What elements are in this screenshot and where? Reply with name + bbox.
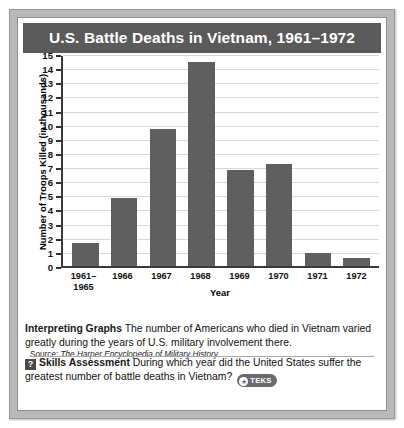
bar xyxy=(343,258,369,266)
y-axis-tick-label: 7 xyxy=(48,164,53,174)
y-axis-tick-mark xyxy=(56,168,61,170)
bar-slot xyxy=(66,56,105,266)
page-title: U.S. Battle Deaths in Vietnam, 1961–1972 xyxy=(49,29,355,47)
question-mark-icon: ? xyxy=(25,359,36,370)
y-axis-tick-mark xyxy=(56,182,61,184)
y-axis-tick-mark xyxy=(56,196,61,198)
plot-area xyxy=(61,56,379,268)
y-axis-tick-mark xyxy=(56,253,61,255)
y-axis-tick-mark xyxy=(56,140,61,142)
y-axis-tick-mark xyxy=(56,83,61,85)
y-axis-tick-label: 13 xyxy=(42,79,53,89)
bar-slot xyxy=(182,56,221,266)
y-axis-tick-mark xyxy=(56,154,61,156)
y-axis-tick-label: 15 xyxy=(42,51,53,61)
y-axis-tick-label: 2 xyxy=(48,235,53,245)
y-axis-label-wrap: Number of Troops Killed (in thousands) xyxy=(23,56,39,268)
y-axis-tick-labels: 0123456789101112131415 xyxy=(39,56,56,268)
skills-assessment-label: Skills Assessment xyxy=(39,357,130,368)
y-axis-tick-label: 1 xyxy=(48,249,53,259)
y-axis-tick-mark xyxy=(56,267,61,269)
y-axis-tick-label: 5 xyxy=(48,193,53,203)
figure-frame: U.S. Battle Deaths in Vietnam, 1961–1972… xyxy=(9,9,395,419)
y-axis-tick-mark xyxy=(56,210,61,212)
y-axis-tick-mark xyxy=(56,69,61,71)
bar-slot xyxy=(260,56,299,266)
interpreting-graphs-paragraph: Interpreting Graphs The number of Americ… xyxy=(25,322,379,349)
y-axis-tick-label: 0 xyxy=(48,263,53,273)
y-axis-tick-label: 9 xyxy=(48,136,53,146)
bar xyxy=(72,243,98,266)
y-axis-tick-mark xyxy=(56,55,61,57)
bar xyxy=(111,198,137,266)
bar-slot xyxy=(299,56,338,266)
teks-badge[interactable]: ★TEKS xyxy=(237,374,276,387)
y-axis-tick-mark xyxy=(56,126,61,128)
star-icon: ★ xyxy=(239,377,248,386)
interpreting-graphs-label: Interpreting Graphs xyxy=(25,323,122,334)
bar-slot xyxy=(105,56,144,266)
bar-series xyxy=(63,56,379,266)
y-axis-tick-label: 8 xyxy=(48,150,53,160)
y-axis-tick-label: 14 xyxy=(42,65,53,75)
y-axis-tick-label: 12 xyxy=(42,94,53,104)
y-axis-tick-mark xyxy=(56,225,61,227)
y-axis-tick-label: 4 xyxy=(48,207,53,217)
bar-slot xyxy=(337,56,376,266)
chart-title-banner: U.S. Battle Deaths in Vietnam, 1961–1972 xyxy=(23,23,381,53)
bar xyxy=(266,164,292,266)
y-axis-tick-label: 6 xyxy=(48,178,53,188)
skills-assessment-paragraph: ?Skills Assessment During which year did… xyxy=(25,356,379,387)
y-axis-tick-label: 10 xyxy=(42,122,53,132)
y-axis-tick-label: 11 xyxy=(43,108,53,118)
x-axis-label: Year xyxy=(61,287,379,298)
bar-slot xyxy=(144,56,183,266)
bar xyxy=(150,129,176,266)
y-axis-tick-mark xyxy=(56,239,61,241)
y-axis-tick-label: 3 xyxy=(48,221,53,231)
figure-inner: U.S. Battle Deaths in Vietnam, 1961–1972… xyxy=(17,17,387,411)
bar xyxy=(188,62,214,266)
chart-region: Number of Troops Killed (in thousands) 0… xyxy=(23,56,381,301)
bar xyxy=(305,253,331,266)
y-axis-tick-mark xyxy=(56,112,61,114)
y-axis-tick-mark xyxy=(56,97,61,99)
caption-block: Interpreting Graphs The number of Americ… xyxy=(25,322,379,387)
bar-slot xyxy=(221,56,260,266)
bar xyxy=(227,170,253,266)
teks-badge-label: TEKS xyxy=(250,377,271,385)
